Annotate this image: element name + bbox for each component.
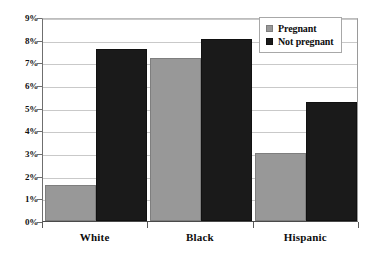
y-axis-tick-label: 9% xyxy=(4,13,38,23)
legend-swatch-not-pregnant xyxy=(266,38,273,45)
bar-white-pregnant xyxy=(45,185,96,221)
bar-chart-figure: 0%1%2%3%4%5%6%7%8%9% WhiteBlackHispanic … xyxy=(0,0,374,258)
y-axis-tick-label: 7% xyxy=(4,58,38,68)
x-axis-label-black: Black xyxy=(186,231,214,243)
y-axis-tick-label: 2% xyxy=(4,172,38,182)
bar-black-not-pregnant xyxy=(201,39,252,221)
y-axis-tick-label: 3% xyxy=(4,149,38,159)
y-axis-tick-label: 0% xyxy=(4,217,38,227)
legend-label: Pregnant xyxy=(278,23,316,34)
y-axis-tick-label: 4% xyxy=(4,126,38,136)
bar-hispanic-pregnant xyxy=(255,153,306,221)
x-axis-label-white: White xyxy=(80,231,110,243)
y-axis-tick-label: 8% xyxy=(4,36,38,46)
x-axis-tick-mark xyxy=(147,222,148,228)
x-axis-tick-mark xyxy=(358,222,359,228)
legend-item-not-pregnant: Not pregnant xyxy=(266,35,334,48)
legend-swatch-pregnant xyxy=(266,25,273,32)
x-axis-tick-mark xyxy=(253,222,254,228)
y-axis-tick-label: 6% xyxy=(4,81,38,91)
y-axis-tick-label: 1% xyxy=(4,194,38,204)
x-axis-tick-mark xyxy=(42,222,43,228)
y-axis-tick-label: 5% xyxy=(4,104,38,114)
chart-legend: PregnantNot pregnant xyxy=(259,17,342,53)
bar-white-not-pregnant xyxy=(96,49,147,221)
legend-item-pregnant: Pregnant xyxy=(266,22,334,35)
x-axis-label-hispanic: Hispanic xyxy=(284,231,327,243)
bar-black-pregnant xyxy=(150,58,201,221)
legend-label: Not pregnant xyxy=(278,36,334,47)
bar-hispanic-not-pregnant xyxy=(306,102,357,221)
